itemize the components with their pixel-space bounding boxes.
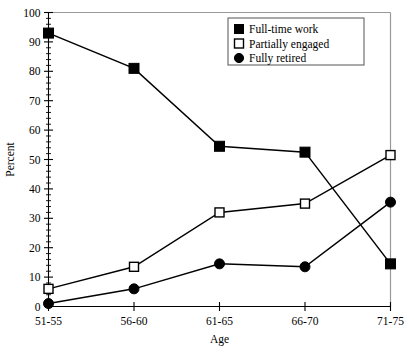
data-point-filled-circle-icon: [129, 284, 139, 294]
series-markers-1: [44, 151, 395, 294]
y-axis-tick-label: 0: [35, 301, 41, 313]
y-axis-tick-label: 10: [29, 271, 41, 283]
y-axis-tick-label: 50: [29, 154, 41, 166]
data-point-filled-circle-icon: [215, 259, 225, 269]
y-axis-tick-label: 100: [23, 7, 41, 19]
data-point-filled-circle-icon: [300, 262, 310, 272]
y-axis-tick-label: 60: [29, 124, 41, 136]
data-point-open-square-icon: [215, 208, 224, 217]
y-axis-tick-label: 30: [29, 212, 41, 224]
x-axis-tick-label: 51-55: [35, 315, 62, 327]
data-point-filled-square-icon: [300, 147, 310, 157]
legend-filled-circle-icon: [234, 53, 243, 62]
data-point-filled-circle-icon: [44, 299, 54, 309]
x-axis-title: Age: [210, 333, 229, 346]
legend-item-label: Full-time work: [249, 23, 319, 35]
x-axis-tick-label: 56-60: [121, 315, 148, 327]
data-point-filled-square-icon: [215, 141, 225, 151]
data-point-open-square-icon: [130, 262, 139, 271]
data-point-open-square-icon: [386, 151, 395, 160]
legend-item-label: Fully retired: [249, 52, 306, 65]
data-point-filled-square-icon: [129, 63, 139, 73]
y-axis-tick-label: 40: [29, 183, 41, 195]
data-point-open-square-icon: [301, 199, 310, 208]
x-axis-tick-label: 66-70: [292, 315, 319, 327]
y-axis-tick-label: 20: [29, 242, 41, 254]
y-axis-tick-label: 70: [29, 95, 41, 107]
data-point-open-square-icon: [44, 284, 53, 293]
data-point-filled-circle-icon: [386, 197, 396, 207]
chart-container: 010203040506070809010051-5556-6061-6566-…: [0, 0, 414, 352]
chart-legend: Full-time workPartially engagedFully ret…: [228, 18, 364, 65]
y-axis-tick-label: 90: [29, 36, 41, 48]
y-axis-tick-label: 80: [29, 65, 41, 77]
y-axis-title: Percent: [4, 141, 16, 176]
data-point-filled-square-icon: [386, 259, 396, 269]
data-point-filled-square-icon: [44, 28, 54, 38]
legend-item-label: Partially engaged: [249, 38, 329, 51]
line-chart: 010203040506070809010051-5556-6061-6566-…: [0, 0, 414, 352]
legend-open-square-icon: [235, 39, 244, 48]
legend-filled-square-icon: [235, 25, 244, 34]
x-axis-tick-label: 71-75: [377, 315, 404, 327]
x-axis-tick-label: 61-65: [206, 315, 233, 327]
